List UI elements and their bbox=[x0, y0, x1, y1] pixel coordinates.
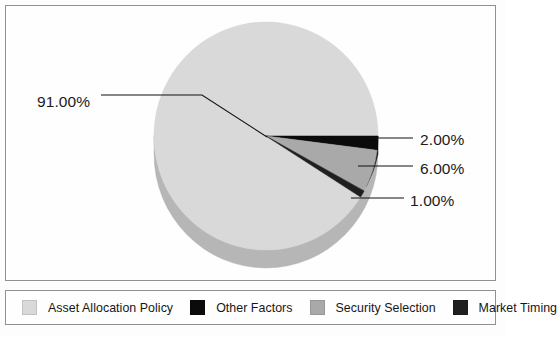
legend-label-security-selection: Security Selection bbox=[336, 301, 436, 315]
pie-label-market-timing: 1.00% bbox=[410, 192, 454, 210]
legend-label-asset-allocation-policy: Asset Allocation Policy bbox=[48, 301, 173, 315]
pie-label-other-factors: 2.00% bbox=[420, 131, 464, 149]
pie-label-security-selection: 6.00% bbox=[420, 160, 464, 178]
legend-swatch-security-selection bbox=[310, 300, 325, 315]
legend-item-asset-allocation-policy[interactable]: Asset Allocation Policy bbox=[22, 300, 173, 315]
legend-swatch-other-factors bbox=[190, 300, 205, 315]
legend-item-other-factors[interactable]: Other Factors bbox=[190, 300, 292, 315]
legend-label-market-timing: Market Timing bbox=[479, 301, 557, 315]
pie-label-asset-allocation-policy: 91.00% bbox=[37, 93, 90, 111]
legend-item-market-timing[interactable]: Market Timing bbox=[453, 300, 557, 315]
legend-item-security-selection[interactable]: Security Selection bbox=[310, 300, 436, 315]
chart-frame: 91.00% 2.00% 6.00% 1.00% bbox=[5, 5, 496, 281]
legend-label-other-factors: Other Factors bbox=[216, 301, 292, 315]
legend-swatch-asset-allocation-policy bbox=[22, 300, 37, 315]
chart-legend: Asset Allocation Policy Other Factors Se… bbox=[5, 290, 496, 325]
legend-swatch-market-timing bbox=[453, 300, 468, 315]
